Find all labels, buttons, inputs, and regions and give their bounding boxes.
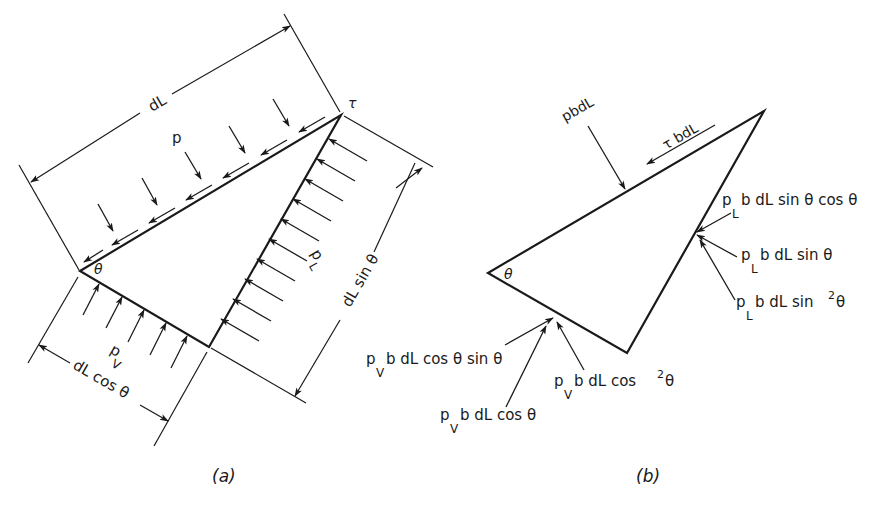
svg-text:b dL sin θ: b dL sin θ	[760, 246, 832, 264]
label-pL-sin-cos: p L b dL sin θ cos θ	[722, 191, 857, 221]
label-p: p	[172, 129, 182, 147]
force-arrow-pL-sin2	[700, 240, 735, 300]
label-pV-cos2: p V b dL cos 2 θ	[554, 368, 674, 402]
svg-text:V: V	[564, 388, 573, 402]
svg-text:L: L	[306, 260, 322, 273]
svg-text:p: p	[736, 293, 746, 311]
dlsin-extension-top	[344, 116, 433, 167]
dlcos-dimension-arrow-left	[39, 345, 70, 363]
dl-extension-left	[19, 165, 79, 270]
dl-dimension-arrow-right	[172, 26, 290, 94]
pressure-arrows-pL	[221, 139, 367, 341]
svg-text:b dL sin θ cos θ: b dL sin θ cos θ	[741, 191, 857, 209]
force-arrow-pbdL	[588, 126, 625, 189]
label-dL: dL	[145, 91, 170, 116]
part-a-labels: dL p τ θ p L p V dL sin θ dL cos θ (a)	[70, 91, 383, 486]
svg-text:p: p	[366, 350, 376, 368]
part-b-labels: θ pbdL τ bdL p L b dL sin θ cos θ p L b …	[366, 93, 857, 486]
caption-a: (a)	[212, 466, 236, 486]
label-tau: τ	[348, 95, 357, 111]
svg-text:L: L	[751, 262, 758, 276]
svg-text:p: p	[554, 372, 564, 390]
label-dL-cos-theta: dL cos θ	[70, 356, 133, 403]
dlcos-extension-right	[154, 352, 207, 446]
shear-arrows-tau	[84, 117, 325, 262]
caption-b: (b)	[636, 466, 660, 486]
svg-text:b dL cos: b dL cos	[574, 372, 636, 390]
label-pV-a: p V	[102, 340, 131, 373]
force-arrow-pV-cos2	[557, 322, 584, 370]
part-a-diagram	[19, 14, 433, 446]
label-pV-cos-sin: p V b dL cos θ sin θ	[366, 350, 502, 380]
label-pbdL: pbdL	[559, 93, 597, 124]
label-pL-sin: p L b dL sin θ	[741, 246, 832, 276]
dlcos-dimension-arrow-right	[140, 405, 168, 421]
svg-text:b dL sin: b dL sin	[755, 293, 813, 311]
force-arrow-pV-cos-sin	[505, 318, 553, 345]
svg-text:p: p	[722, 191, 732, 209]
dlcos-extension-left	[28, 277, 78, 363]
svg-text:L: L	[746, 309, 753, 323]
pressure-arrows-p	[98, 99, 289, 231]
label-pV-cos: p V b dL cos θ	[440, 406, 536, 436]
label-pL-sin2: p L b dL sin 2 θ	[736, 289, 845, 323]
dl-dimension-arrow-left	[31, 113, 140, 182]
svg-text:V: V	[376, 366, 385, 380]
svg-text:p: p	[741, 246, 751, 264]
dlsin-extension-bottom	[211, 348, 306, 403]
part-b-diagram	[488, 111, 764, 407]
force-arrow-pV-cos	[506, 326, 546, 407]
label-theta-a: θ	[94, 261, 103, 277]
svg-text:p: p	[440, 406, 450, 424]
diagram-canvas: dL p τ θ p L p V dL sin θ dL cos θ (a) θ…	[0, 0, 878, 507]
dlsin-dimension-line	[374, 163, 415, 252]
dlsin-dimension-arrow-bottom	[295, 320, 340, 396]
label-dL-sin-theta: dL sin θ	[338, 251, 383, 310]
svg-text:θ: θ	[665, 372, 674, 390]
label-tau-bdL: τ bdL	[660, 119, 701, 152]
svg-text:V: V	[450, 422, 459, 436]
svg-text:b dL cos θ sin θ: b dL cos θ sin θ	[386, 350, 502, 368]
svg-text:L: L	[732, 207, 739, 221]
dl-extension-right	[284, 14, 340, 112]
svg-text:V: V	[109, 356, 124, 373]
svg-text:b dL cos θ: b dL cos θ	[460, 406, 536, 424]
label-theta-b: θ	[504, 266, 513, 282]
free-body-diagram-figure: dL p τ θ p L p V dL sin θ dL cos θ (a) θ…	[0, 0, 878, 507]
dlsin-dimension-arrow-top	[396, 168, 422, 188]
svg-text:2: 2	[657, 368, 664, 381]
svg-text:θ: θ	[836, 293, 845, 311]
svg-text:2: 2	[828, 289, 835, 302]
triangle-element-b	[488, 111, 764, 353]
